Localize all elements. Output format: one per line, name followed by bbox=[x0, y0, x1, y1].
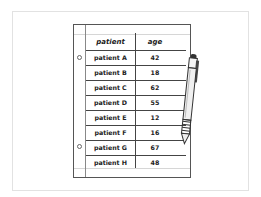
notepaper: patient age patient A 42 patient B 18 pa… bbox=[73, 24, 191, 178]
table-row: patient B 18 bbox=[86, 65, 186, 81]
cell-patient: patient C bbox=[86, 84, 135, 91]
table-header: patient age bbox=[86, 35, 186, 51]
table-row: patient E 12 bbox=[86, 110, 186, 126]
cell-age: 42 bbox=[135, 54, 175, 61]
cell-patient: patient H bbox=[86, 159, 135, 166]
cell-patient: patient B bbox=[86, 69, 135, 76]
cell-age: 48 bbox=[135, 159, 175, 166]
table-row: patient F 16 bbox=[86, 125, 186, 141]
cell-age: 62 bbox=[135, 84, 175, 91]
cell-age: 12 bbox=[135, 114, 175, 121]
cell-age: 16 bbox=[135, 129, 175, 136]
cell-age: 55 bbox=[135, 99, 175, 106]
cell-patient: patient A bbox=[86, 54, 135, 61]
table-row: patient C 62 bbox=[86, 80, 186, 96]
cell-age: 18 bbox=[135, 69, 175, 76]
pen-icon bbox=[180, 52, 200, 148]
table-row: patient H 48 bbox=[86, 155, 186, 170]
cell-patient: patient F bbox=[86, 129, 135, 136]
cell-age: 67 bbox=[135, 144, 175, 151]
header-age: age bbox=[135, 38, 175, 46]
punch-hole-icon bbox=[77, 55, 82, 60]
table-row: patient G 67 bbox=[86, 140, 186, 156]
punch-hole-icon bbox=[77, 144, 82, 149]
cell-patient: patient E bbox=[86, 114, 135, 121]
table-row: patient A 42 bbox=[86, 50, 186, 66]
table-row: patient D 55 bbox=[86, 95, 186, 111]
cell-patient: patient G bbox=[86, 144, 135, 151]
header-patient: patient bbox=[86, 38, 135, 46]
cell-patient: patient D bbox=[86, 99, 135, 106]
